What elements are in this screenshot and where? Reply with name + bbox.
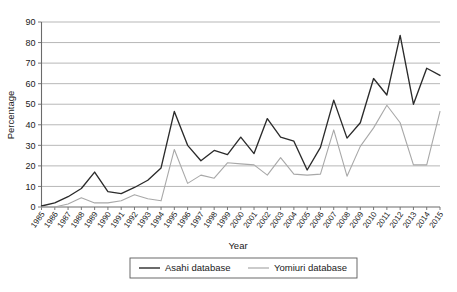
x-axis-ticks-group: 1985198619871988198919901991199219931994… — [29, 207, 445, 230]
y-tick-label: 90 — [25, 17, 35, 27]
x-tick-label: 2010 — [361, 210, 379, 230]
y-axis-ticks-group: 0102030405060708090 — [25, 17, 41, 212]
y-tick-label: 20 — [25, 161, 35, 171]
x-tick-label: 2015 — [428, 210, 446, 230]
y-tick-label: 0 — [30, 202, 35, 212]
legend-label-asahi-database: Asahi database — [165, 262, 231, 273]
y-tick-label: 30 — [25, 141, 35, 151]
y-axis-title: Percentage — [5, 91, 16, 140]
series-line-asahi-database — [42, 35, 441, 206]
y-tick-label: 60 — [25, 79, 35, 89]
y-tick-label: 70 — [25, 58, 35, 68]
chart-container: 0102030405060708090 19851986198719881989… — [0, 0, 457, 292]
series-line-yomiuri-database — [42, 105, 441, 207]
gridlines-group — [42, 22, 441, 186]
x-axis-title: Year — [228, 240, 247, 251]
y-tick-label: 40 — [25, 120, 35, 130]
y-tick-label: 50 — [25, 99, 35, 109]
y-tick-label: 10 — [25, 182, 35, 192]
line-chart: 0102030405060708090 19851986198719881989… — [0, 0, 457, 292]
y-tick-label: 80 — [25, 38, 35, 48]
legend-label-yomiuri-database: Yomiuri database — [274, 262, 347, 273]
series-group — [42, 35, 441, 207]
legend: Asahi databaseYomiuri database — [130, 258, 357, 278]
